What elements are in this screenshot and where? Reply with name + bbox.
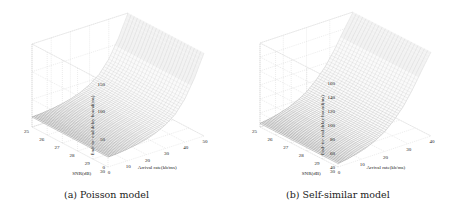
panel-poisson: 05010015025262728293001020304050End- to-… (0, 0, 226, 180)
z-tick-label: 60 (330, 151, 336, 156)
x-tick-label: 30 (164, 151, 170, 156)
y-axis-label: SNR(dB) (72, 171, 91, 176)
z-tick-label: 80 (330, 137, 336, 142)
z-tick-label: 100 (98, 109, 106, 114)
x-tick-label: 10 (360, 162, 366, 167)
y-tick-label: 29 (314, 161, 320, 166)
z-tick-label: 150 (98, 82, 106, 87)
x-tick-label: 0 (108, 170, 111, 175)
surface-plot-poisson: 05010015025262728293001020304050End- to-… (0, 0, 226, 180)
box-edge (32, 13, 128, 44)
z-tick-label: 140 (328, 95, 336, 100)
y-tick-label: 29 (85, 161, 91, 166)
x-tick-label: 10 (126, 164, 132, 169)
y-tick-label: 27 (283, 145, 289, 150)
x-tick-label: 0 (338, 170, 341, 175)
y-tick-label: 30 (100, 169, 106, 174)
y-tick-label: 27 (54, 145, 60, 150)
y-tick-label: 28 (299, 153, 305, 158)
x-tick-label: 40 (183, 145, 189, 150)
caption-self-similar: (b) Self-similar model (286, 189, 390, 200)
x-axis-label: Arrival rate(kb/ms) (138, 165, 177, 170)
box-edge (260, 12, 353, 43)
y-axis-label: SNR(dB) (302, 171, 321, 176)
surface-plot-self-similar: 406080100120140160252627282930010203040E… (226, 0, 453, 180)
y-tick-label: 26 (268, 137, 274, 142)
y-tick-label: 25 (24, 129, 30, 134)
surface (260, 12, 431, 164)
panel-self-similar: 406080100120140160252627282930010203040E… (226, 0, 453, 180)
x-tick-label: 20 (383, 155, 389, 160)
y-tick-label: 30 (330, 169, 336, 174)
x-tick-label: 50 (203, 139, 209, 144)
y-tick-label: 26 (39, 137, 45, 142)
z-tick-label: 50 (100, 137, 106, 142)
x-tick-label: 20 (145, 158, 151, 163)
caption-poisson: (a) Poisson model (64, 189, 149, 200)
z-tick-label: 120 (328, 109, 336, 114)
y-tick-label: 25 (252, 129, 258, 134)
y-tick-label: 28 (70, 153, 76, 158)
z-tick-label: 100 (328, 123, 336, 128)
x-axis-label: Arrival rate(kb/ms) (366, 165, 405, 170)
z-axis-label: End- to- end delay bound(ms) (320, 95, 325, 155)
x-tick-label: 30 (406, 147, 412, 152)
x-tick-label: 40 (430, 139, 436, 144)
z-axis-label: End- to- end delay bound(ms) (90, 95, 95, 155)
z-tick-label: 160 (328, 81, 336, 86)
